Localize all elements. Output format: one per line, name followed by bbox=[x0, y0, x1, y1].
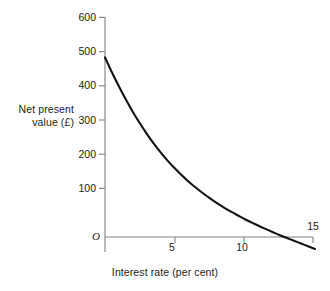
y-tick-marks bbox=[99, 17, 105, 188]
npv-curve bbox=[105, 57, 315, 249]
npv-chart-figure: Net present value (£) Interest rate (per… bbox=[0, 0, 330, 291]
plot-area bbox=[0, 0, 330, 291]
